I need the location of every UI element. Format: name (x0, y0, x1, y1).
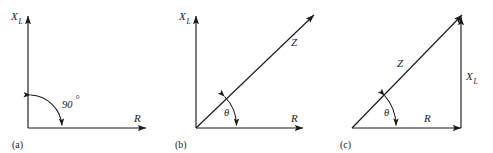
panel-c-vertical-subscript: L (473, 77, 478, 86)
panel-c-horizontal-label: R (423, 112, 431, 124)
panel-a-right-angle-arc (31, 95, 63, 126)
panel-a-caption: (a) (12, 139, 23, 151)
panel-c-hypotenuse-label: Z (397, 57, 404, 69)
panel-b-angle-label: θ (224, 107, 229, 118)
panel-b-vertical-axis-subscript: L (186, 17, 191, 26)
panel-b-vector-label: Z (291, 36, 298, 48)
panel-b-horizontal-axis-label: R (290, 112, 298, 124)
figure-canvas: X L R 90 ° (a) X L R Z θ (b) Z R X L θ (… (0, 0, 493, 153)
panel-c-caption: (c) (340, 139, 351, 151)
panel-a-angle-value: 90 (62, 99, 73, 110)
panel-c-impedance-hypotenuse (352, 15, 462, 128)
panel-a-horizontal-axis-label: R (133, 112, 141, 124)
panel-a-vertical-axis-subscript: L (18, 17, 23, 26)
panel-a-degree-symbol: ° (76, 94, 80, 105)
panel-a (28, 16, 146, 128)
impedance-phasor-figure: X L R 90 ° (a) X L R Z θ (b) Z R X L θ (… (0, 0, 493, 153)
panel-c-angle-label: θ (384, 107, 389, 118)
panel-b-caption: (b) (175, 139, 187, 151)
panel-c (352, 15, 462, 128)
